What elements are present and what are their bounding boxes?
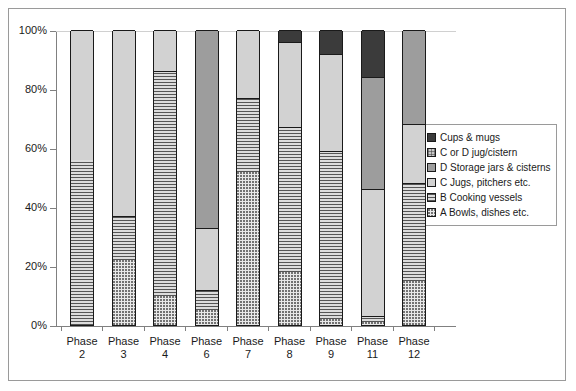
x-axis-tick	[61, 326, 62, 331]
y-axis-tick-label: 20%	[11, 261, 47, 272]
bar-segment-a[interactable]	[320, 319, 342, 325]
x-label-line-1: Phase	[232, 335, 263, 347]
y-axis-tick-label: 40%	[11, 202, 47, 213]
legend-item[interactable]: D Storage jars & cisterns	[427, 160, 552, 175]
y-axis-tick	[50, 149, 56, 150]
bar-segment-b[interactable]	[403, 183, 425, 280]
bar-segment-b[interactable]	[113, 216, 135, 260]
stacked-bar[interactable]	[319, 31, 343, 326]
x-axis-tick	[351, 326, 352, 331]
y-axis-tick	[50, 90, 56, 91]
x-axis-category-label: Phase12	[390, 335, 438, 361]
bar-segment-b[interactable]	[320, 151, 342, 319]
y-axis-tick-label: 100%	[11, 25, 47, 36]
bar-segment-a[interactable]	[113, 260, 135, 325]
legend-swatch-a-icon	[427, 208, 436, 217]
x-label-line-1: Phase	[315, 335, 346, 347]
y-axis-tick	[50, 267, 56, 268]
bar-segment-cups[interactable]	[279, 30, 301, 42]
legend-item[interactable]: C or D jug/cistern	[427, 145, 552, 160]
x-label-line-1: Phase	[191, 335, 222, 347]
bar-segment-a[interactable]	[196, 310, 218, 325]
bar-segment-b[interactable]	[362, 316, 384, 322]
x-label-line-1: Phase	[149, 335, 180, 347]
bar-segment-b[interactable]	[196, 290, 218, 311]
bar-segment-b[interactable]	[154, 71, 176, 295]
bar-segment-a[interactable]	[403, 281, 425, 325]
legend-swatch-cd-icon	[427, 148, 436, 157]
bar-segment-c[interactable]	[320, 54, 342, 151]
stacked-bar[interactable]	[153, 31, 177, 326]
y-axis-labels: 0%20%40%60%80%100%	[9, 9, 47, 349]
bar-segment-c[interactable]	[196, 228, 218, 290]
legend-label: B Cooking vessels	[440, 192, 522, 203]
bar-segment-d[interactable]	[403, 30, 425, 124]
x-axis-tick	[310, 326, 311, 331]
stacked-bar[interactable]	[402, 31, 426, 326]
legend-swatch-c-icon	[427, 178, 436, 187]
stacked-bar[interactable]	[112, 31, 136, 326]
bar-segment-b[interactable]	[71, 160, 93, 325]
y-axis-tick	[50, 208, 56, 209]
legend-swatch-b-icon	[427, 193, 436, 202]
bar-segment-cups[interactable]	[362, 30, 384, 77]
x-axis-line	[56, 326, 456, 327]
y-axis-tick	[50, 326, 56, 327]
chart-frame: 0%20%40%60%80%100% Cups & mugsC or D jug…	[8, 8, 566, 381]
legend-item[interactable]: A Bowls, dishes etc.	[427, 205, 552, 220]
bar-segment-c[interactable]	[403, 124, 425, 183]
bar-segment-b[interactable]	[237, 98, 259, 172]
x-label-line-1: Phase	[357, 335, 388, 347]
x-axis-tick	[185, 326, 186, 331]
legend-label: D Storage jars & cisterns	[440, 162, 551, 173]
legend-item[interactable]: Cups & mugs	[427, 130, 552, 145]
stacked-bar[interactable]	[195, 31, 219, 326]
x-label-line-1: Phase	[398, 335, 429, 347]
bar-segment-c[interactable]	[279, 42, 301, 128]
x-label-line-1: Phase	[108, 335, 139, 347]
stacked-bar[interactable]	[236, 31, 260, 326]
bar-segment-cups[interactable]	[320, 30, 342, 54]
bar-segment-c[interactable]	[71, 30, 93, 160]
legend-item[interactable]: C Jugs, pitchers etc.	[427, 175, 552, 190]
y-axis-tick-label: 0%	[11, 320, 47, 331]
x-axis-tick	[102, 326, 103, 331]
x-axis-tick	[144, 326, 145, 331]
bar-segment-d[interactable]	[362, 77, 384, 189]
legend-label: C Jugs, pitchers etc.	[440, 177, 531, 188]
bar-segment-a[interactable]	[279, 272, 301, 325]
bar-segment-b[interactable]	[279, 127, 301, 272]
bar-segment-a[interactable]	[237, 172, 259, 325]
legend-label: Cups & mugs	[440, 132, 500, 143]
bar-segment-a[interactable]	[154, 296, 176, 326]
x-axis-tick	[227, 326, 228, 331]
x-label-line-1: Phase	[274, 335, 305, 347]
legend-swatch-d-icon	[427, 163, 436, 172]
stacked-bar[interactable]	[361, 31, 385, 326]
x-axis-tick	[268, 326, 269, 331]
bar-segment-a[interactable]	[362, 322, 384, 325]
x-label-line-1: Phase	[66, 335, 97, 347]
stacked-bar[interactable]	[70, 31, 94, 326]
x-axis-tick	[434, 326, 435, 331]
legend-item[interactable]: B Cooking vessels	[427, 190, 552, 205]
y-axis-tick-label: 80%	[11, 84, 47, 95]
bar-segment-c[interactable]	[113, 30, 135, 216]
bar-segment-c[interactable]	[362, 189, 384, 316]
chart-legend: Cups & mugsC or D jug/cisternD Storage j…	[421, 124, 557, 226]
legend-label: A Bowls, dishes etc.	[440, 207, 529, 218]
x-axis-tick	[393, 326, 394, 331]
bar-segment-d[interactable]	[196, 30, 218, 228]
bar-segment-c[interactable]	[237, 30, 259, 98]
bar-segment-c[interactable]	[154, 30, 176, 71]
stacked-bar[interactable]	[278, 31, 302, 326]
legend-swatch-cups-icon	[427, 133, 436, 142]
legend-label: C or D jug/cistern	[440, 147, 517, 158]
y-axis-tick-label: 60%	[11, 143, 47, 154]
y-axis-tick	[50, 31, 56, 32]
plot-area	[56, 31, 401, 326]
x-label-line-2: 12	[390, 348, 438, 361]
